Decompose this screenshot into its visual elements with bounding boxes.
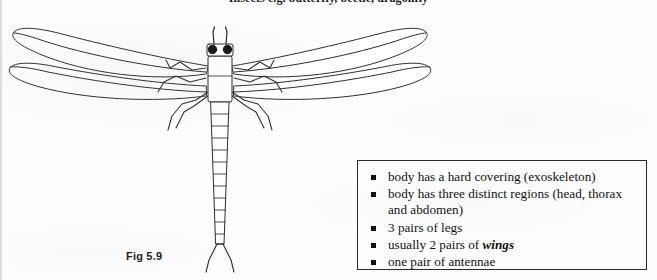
- list-item-text: body has a hard covering (exoskeleton): [388, 169, 596, 184]
- thorax: [208, 56, 232, 102]
- list-item: usually 2 pairs of wings: [367, 237, 640, 253]
- left-compound-eye: [208, 45, 216, 53]
- right-compound-eye: [223, 45, 231, 53]
- insect-characteristics-list: body has a hard covering (exoskeleton) b…: [358, 161, 646, 270]
- list-item-emphasis: wings: [483, 237, 515, 252]
- list-item: one pair of antennae: [367, 254, 640, 270]
- left-antenna: [213, 27, 215, 44]
- list-item-text: 3 pairs of legs: [388, 220, 462, 235]
- list-item: 3 pairs of legs: [367, 220, 640, 236]
- list-item: body has three distinct regions (head, t…: [367, 186, 640, 218]
- right-cercus: [223, 244, 234, 272]
- square-bullet-icon: [371, 175, 376, 180]
- right-antenna: [226, 27, 228, 44]
- square-bullet-icon: [371, 192, 376, 197]
- list-item-text-before: usually 2 pairs of: [388, 237, 483, 252]
- left-cercus: [206, 244, 217, 272]
- figure-caption: Fig 5.9: [126, 250, 162, 262]
- square-bullet-icon: [371, 243, 376, 248]
- abdomen: [211, 102, 229, 244]
- insect-characteristics-box: body has a hard covering (exoskeleton) b…: [357, 160, 647, 270]
- list-item: body has a hard covering (exoskeleton): [367, 169, 640, 185]
- list-item-text: one pair of antennae: [388, 254, 495, 269]
- square-bullet-icon: [371, 226, 376, 231]
- list-item-text: body has three distinct regions (head, t…: [388, 186, 622, 217]
- square-bullet-icon: [371, 260, 376, 265]
- page-heading: Insects e.g. butterfly, beetle, dragonfl…: [0, 0, 657, 6]
